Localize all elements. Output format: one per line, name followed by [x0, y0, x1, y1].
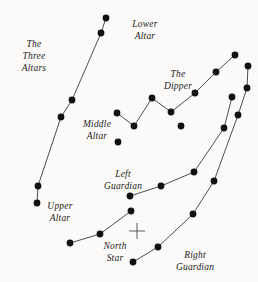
label-upper-altar: Upper Altar: [20, 200, 100, 224]
marker-layer: [129, 223, 145, 239]
star-left-guardian-upper: [221, 125, 228, 132]
star-north-star-east: [128, 208, 135, 215]
star-chart: The Three AltarsLower AltarThe DipperMid…: [0, 0, 258, 282]
star-right-guardian-upper: [235, 112, 242, 119]
constellation-line: [158, 214, 193, 247]
constellation-line: [193, 181, 214, 214]
star-dipper-handle-end: [114, 110, 121, 117]
constellation-line: [214, 115, 238, 181]
star-north-star-west: [67, 240, 74, 247]
constellation-line: [100, 211, 131, 234]
constellation-line: [238, 88, 247, 115]
star-lower-altar-lower: [98, 30, 105, 37]
star-right-guardian-crown: [245, 63, 252, 70]
constellation-line: [216, 55, 235, 72]
star-middle-altar-upper: [69, 97, 76, 104]
constellation-line: [171, 93, 195, 112]
label-north-star: North Star: [75, 240, 155, 264]
star-dipper-spur-star: [178, 123, 185, 130]
constellation-line: [72, 33, 101, 100]
label-three-altars: The Three Altars: [0, 38, 74, 74]
star-upper-altar-upper: [35, 183, 42, 190]
star-right-guardian-bend: [211, 178, 218, 185]
label-lower-altar: Lower Altar: [105, 18, 185, 42]
constellation-line: [152, 98, 171, 112]
star-dipper-bowl-top: [149, 95, 156, 102]
label-the-dipper: The Dipper: [138, 68, 218, 92]
constellation-line: [161, 172, 194, 186]
star-dipper-join: [168, 109, 175, 116]
celestial-pole-cross: [129, 223, 145, 239]
star-right-guardian-top: [244, 85, 251, 92]
star-dipper-arc-3: [232, 52, 239, 59]
star-right-guardian-mid: [190, 211, 197, 218]
star-north-star-mid: [97, 231, 104, 238]
star-left-guardian-base: [127, 193, 134, 200]
constellation-line: [224, 97, 232, 128]
star-left-guardian-top: [229, 94, 236, 101]
star-left-guardian-bend: [191, 169, 198, 176]
label-right-guardian: Right Guardian: [155, 249, 235, 273]
label-left-guardian: Left Guardian: [83, 168, 163, 192]
label-middle-altar: Middle Altar: [57, 118, 137, 142]
